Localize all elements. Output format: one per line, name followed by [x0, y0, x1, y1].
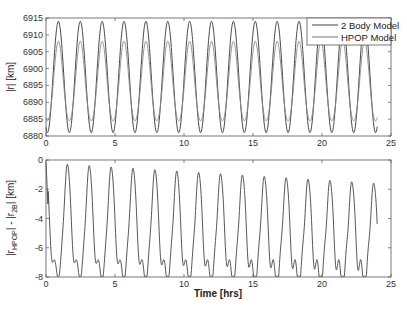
bottom-y-axis-label: |rHPOP| - |r2B| [km] — [5, 180, 18, 256]
x-tick-label: 25 — [386, 138, 396, 148]
y-tick-label: 6915 — [23, 13, 43, 23]
y-tick-label: 6900 — [23, 64, 43, 74]
y-tick-label: -8 — [35, 272, 43, 282]
x-tick-label: 10 — [179, 138, 189, 148]
x-tick-label: 0 — [43, 279, 48, 289]
top-y-axis-label: |r| [km] — [5, 62, 16, 92]
x-tick-label: 20 — [317, 138, 327, 148]
top-plot: 68806885689068956900690569106915 0510152… — [5, 13, 399, 148]
x-axis-label: Time [hrs] — [194, 288, 242, 299]
x-tick-label: 15 — [248, 279, 258, 289]
x-tick-label: 0 — [43, 138, 48, 148]
y-tick-label: 6880 — [23, 131, 43, 141]
legend-label-2body: 2 Body Model — [341, 20, 399, 31]
legend: 2 Body Model HPOP Model — [307, 18, 399, 45]
legend-label-hpop: HPOP Model — [341, 32, 396, 43]
x-tick-label: 10 — [179, 279, 189, 289]
y-tick-label: 6905 — [23, 47, 43, 57]
x-tick-label: 25 — [386, 279, 396, 289]
y-tick-label: 6885 — [23, 114, 43, 124]
figure: 68806885689068956900690569106915 0510152… — [0, 0, 407, 315]
x-tick-label: 15 — [248, 138, 258, 148]
y-tick-label: -6 — [35, 243, 43, 253]
y-tick-label: 6910 — [23, 30, 43, 40]
y-tick-label: -4 — [35, 214, 43, 224]
y-tick-label: 6895 — [23, 80, 43, 90]
y-tick-label: 0 — [38, 155, 43, 165]
x-tick-label: 5 — [112, 279, 117, 289]
y-tick-label: -2 — [35, 184, 43, 194]
x-tick-label: 20 — [317, 279, 327, 289]
y-tick-label: 6890 — [23, 97, 43, 107]
x-tick-label: 5 — [112, 138, 117, 148]
bottom-plot: -8-6-4-20 0510152025 |rHPOP| - |r2B| [km… — [5, 155, 396, 299]
